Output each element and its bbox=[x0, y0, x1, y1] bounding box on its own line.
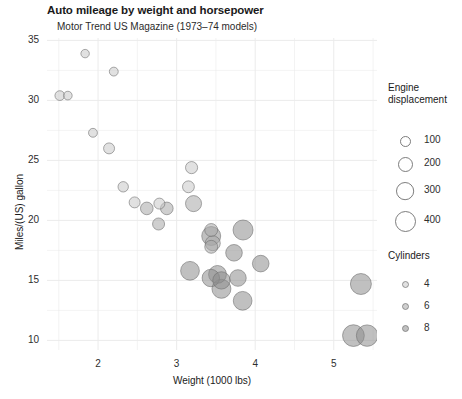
legend-size-swatch bbox=[388, 210, 422, 233]
legend-size-label: 400 bbox=[424, 214, 441, 225]
data-point bbox=[356, 325, 377, 346]
legend-size-swatch bbox=[388, 181, 422, 201]
data-point bbox=[205, 224, 218, 237]
data-point bbox=[213, 272, 230, 289]
plot-canvas bbox=[47, 38, 377, 350]
x-tick-label: 5 bbox=[319, 358, 349, 369]
legend-size-swatch bbox=[388, 135, 422, 148]
data-point bbox=[186, 196, 202, 212]
data-point bbox=[81, 49, 89, 57]
legend-color-title: Cylinders bbox=[388, 250, 430, 261]
y-tick-label: 30 bbox=[5, 94, 39, 105]
legend-size-label: 200 bbox=[424, 157, 441, 168]
data-point bbox=[89, 128, 98, 137]
data-point bbox=[63, 91, 72, 100]
legend-cylinders: Cylinders 468 bbox=[388, 250, 462, 262]
legend-cylinders-swatch bbox=[388, 280, 422, 289]
data-point bbox=[226, 245, 243, 262]
legend-size-label: 300 bbox=[424, 184, 441, 195]
data-point bbox=[109, 67, 118, 76]
bubble-chart: Auto mileage by weight and horsepower Mo… bbox=[0, 0, 462, 399]
legend-cylinders-label: 4 bbox=[424, 278, 430, 289]
data-point bbox=[205, 240, 218, 253]
legend-size-title-line1: Engine bbox=[388, 82, 419, 93]
chart-title: Auto mileage by weight and horsepower bbox=[47, 4, 264, 16]
legend-cylinders-label: 6 bbox=[424, 300, 430, 311]
plot-panel bbox=[47, 38, 377, 350]
data-point bbox=[129, 197, 140, 208]
x-axis-title: Weight (1000 lbs) bbox=[47, 375, 377, 386]
y-tick-label: 25 bbox=[5, 154, 39, 165]
x-tick-label: 3 bbox=[162, 358, 192, 369]
x-tick-label: 4 bbox=[240, 358, 270, 369]
data-point bbox=[252, 255, 269, 272]
y-tick-label: 15 bbox=[5, 274, 39, 285]
gridlines bbox=[47, 38, 377, 350]
data-point bbox=[154, 198, 165, 209]
y-tick-label: 10 bbox=[5, 334, 39, 345]
legend-engine-displacement: Engine displacement 100200300400 bbox=[388, 82, 462, 106]
data-point bbox=[230, 270, 247, 287]
data-point bbox=[181, 261, 200, 280]
legend-size-swatch bbox=[388, 156, 422, 173]
data-point bbox=[118, 182, 128, 192]
data-point bbox=[233, 291, 252, 310]
data-point bbox=[104, 143, 115, 154]
legend-size-title-line2: displacement bbox=[388, 94, 447, 105]
legend-size-label: 100 bbox=[424, 134, 441, 145]
legend-cylinders-swatch bbox=[388, 324, 422, 333]
data-point bbox=[183, 181, 195, 193]
chart-subtitle: Motor Trend US Magazine (1973–74 models) bbox=[57, 21, 257, 32]
data-point bbox=[350, 274, 371, 295]
data-point bbox=[186, 162, 198, 174]
data-point bbox=[140, 202, 153, 215]
y-tick-label: 35 bbox=[5, 34, 39, 45]
data-point bbox=[233, 220, 253, 240]
x-tick-label: 2 bbox=[83, 358, 113, 369]
legend-cylinders-swatch bbox=[388, 302, 422, 311]
data-point bbox=[153, 218, 165, 230]
y-axis-title: Miles/(US) gallon bbox=[14, 174, 25, 250]
legend-cylinders-label: 8 bbox=[424, 322, 430, 333]
